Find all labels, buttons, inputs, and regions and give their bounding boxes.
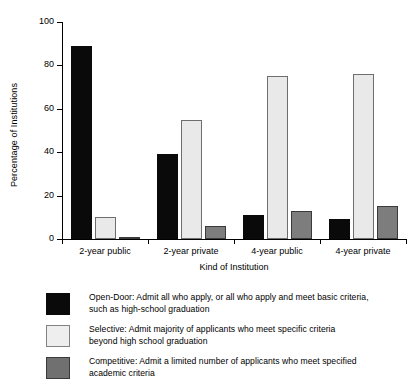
legend-item: Selective: Admit majority of applicants … [46, 324, 408, 347]
x-axis-tick [62, 239, 63, 244]
y-axis-tick-label: 0 [49, 233, 54, 243]
legend-item-line-2: academic criteria [89, 368, 357, 380]
bar-comp [205, 226, 226, 239]
bar-open [71, 46, 92, 239]
y-axis-tick-label: 20 [44, 190, 54, 200]
y-axis-tick: 100 [57, 22, 62, 23]
bar-comp [119, 237, 140, 239]
legend-item-text: Competitive: Admit a limited number of a… [89, 356, 357, 379]
plot-area: Percentage of Institutions 0204060801002… [0, 0, 418, 290]
legend-swatch-competitive [46, 357, 70, 379]
y-axis-title: Percentage of Institutions [9, 55, 19, 215]
x-axis-category-label: 2-year public [62, 246, 148, 256]
bar-comp [291, 211, 312, 239]
bar-chart-figure: Percentage of Institutions 0204060801002… [0, 0, 418, 386]
chart-legend: Open-Door: Admit all who apply, or all w… [0, 288, 418, 386]
y-axis-line [62, 22, 63, 240]
x-axis-tick [320, 239, 321, 244]
legend-swatch-selective [46, 325, 70, 347]
bar-sel [95, 217, 116, 239]
y-axis-tick-label: 100 [39, 16, 54, 26]
y-axis-tick: 80 [57, 65, 62, 66]
x-axis-tick [148, 239, 149, 244]
legend-item-text: Open-Door: Admit all who apply, or all w… [89, 292, 369, 315]
x-axis-category-label: 4-year private [320, 246, 406, 256]
y-axis-tick: 60 [57, 109, 62, 110]
bar-sel [181, 120, 202, 239]
x-axis-title: Kind of Institution [62, 262, 406, 272]
bar-sel [353, 74, 374, 239]
x-axis-tick [234, 239, 235, 244]
legend-item: Competitive: Admit a limited number of a… [46, 356, 408, 379]
bar-group [157, 22, 226, 239]
bar-comp [377, 206, 398, 239]
y-axis-tick: 20 [57, 196, 62, 197]
legend-item-line-1: Open-Door: Admit all who apply, or all w… [89, 292, 369, 302]
bar-sel [267, 76, 288, 239]
legend-swatch-open-door [46, 293, 70, 315]
legend-item-line-2: such as high-school graduation [89, 304, 369, 316]
bar-group [243, 22, 312, 239]
bar-open [157, 154, 178, 239]
bar-open [329, 219, 350, 239]
y-axis-tick-label: 60 [44, 103, 54, 113]
legend-item: Open-Door: Admit all who apply, or all w… [46, 292, 408, 315]
y-axis-tick: 40 [57, 152, 62, 153]
x-axis-category-label: 4-year public [234, 246, 320, 256]
bar-open [243, 215, 264, 239]
bar-group [329, 22, 398, 239]
bar-group [71, 22, 140, 239]
x-axis-category-label: 2-year private [148, 246, 234, 256]
legend-item-line-1: Competitive: Admit a limited number of a… [89, 356, 357, 366]
legend-item-text: Selective: Admit majority of applicants … [89, 324, 335, 347]
x-axis-tick [406, 239, 407, 244]
legend-item-line-2: beyond high school graduation [89, 336, 335, 348]
axes: 0204060801002-year public2-year private4… [62, 22, 406, 239]
y-axis-tick-label: 80 [44, 59, 54, 69]
y-axis-tick-label: 40 [44, 146, 54, 156]
legend-item-line-1: Selective: Admit majority of applicants … [89, 324, 335, 334]
